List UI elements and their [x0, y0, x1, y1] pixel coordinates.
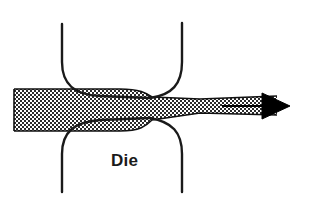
- die-label: Die: [111, 151, 138, 170]
- wire-drawing-diagram: Die: [0, 0, 309, 216]
- diagram-canvas: Die: [0, 0, 309, 216]
